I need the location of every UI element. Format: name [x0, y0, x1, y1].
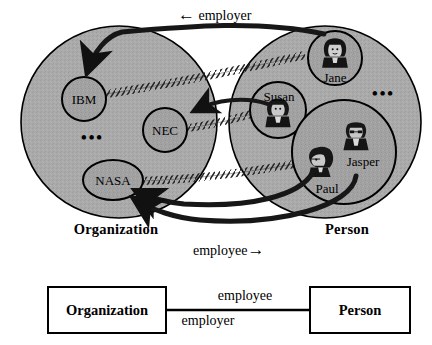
schema-edge-label-employee: employee [218, 289, 272, 303]
person-ellipsis-icon: ••• [372, 84, 395, 103]
set-label-person: Person [325, 222, 369, 237]
node-label-jane: Jane [323, 71, 346, 84]
schema-label-person: Person [339, 303, 382, 318]
relation-label-employer-top: ← employer [178, 6, 251, 23]
diagram-canvas: ← employer employee→ IBM NEC NASA Jane S… [0, 0, 432, 345]
face-man-icon [343, 122, 368, 150]
relation-label-employee-bottom: employee→ [193, 241, 264, 258]
node-label-paul: Paul [315, 182, 338, 195]
employer-arrow-icon: ← [178, 5, 195, 24]
org-ellipsis-icon: ••• [81, 128, 104, 147]
employee-arrow-icon: → [247, 240, 264, 259]
node-label-susan: Susan [263, 90, 294, 103]
node-label-nec: NEC [152, 124, 178, 137]
schema-label-organization: Organization [66, 303, 148, 318]
employer-top-text: employer [199, 8, 252, 23]
node-paul-jasper-group-shape [292, 100, 396, 204]
employee-bottom-text: employee [193, 243, 247, 258]
node-label-jasper: Jasper [347, 155, 380, 168]
set-label-organization: Organization [74, 222, 159, 237]
node-label-nasa: NASA [95, 174, 130, 187]
face-woman-icon [322, 38, 348, 67]
node-label-ibm: IBM [72, 93, 97, 106]
diagram-graphics [0, 0, 432, 345]
schema-edge-label-employer: employer [182, 314, 235, 328]
